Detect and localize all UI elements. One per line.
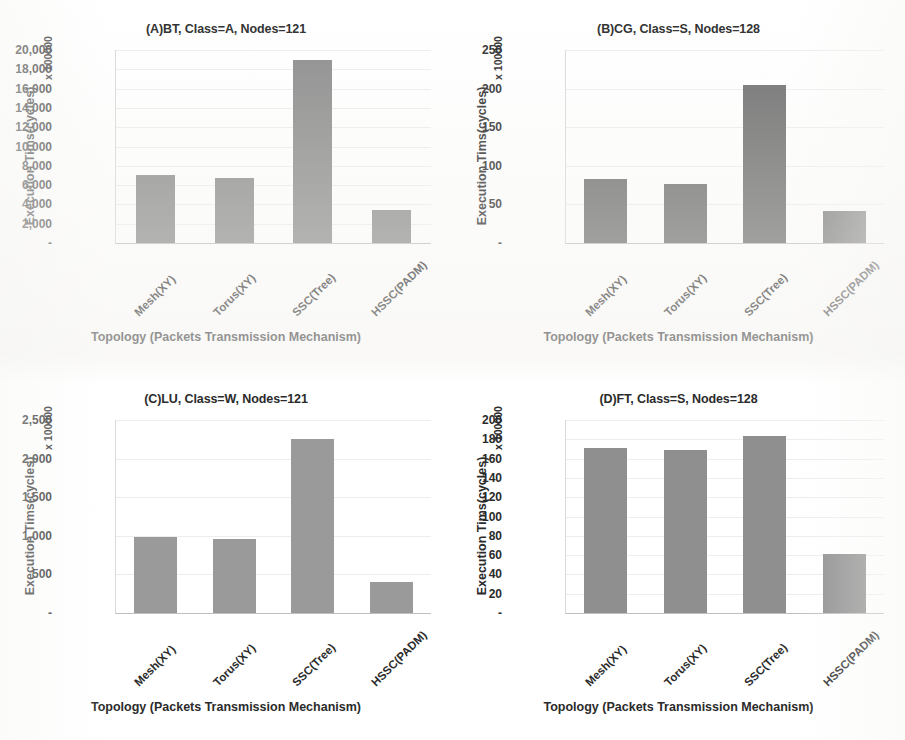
gridline	[566, 439, 884, 440]
x-axis-title-D: Topology (Packets Transmission Mechanism…	[452, 700, 905, 714]
y-tick-label: 6,000	[22, 179, 52, 191]
x-tick-label: SSC(Tree)	[290, 641, 337, 688]
gridline	[566, 50, 884, 51]
plot-area-A	[115, 50, 431, 244]
y-tick-label: 200	[482, 83, 502, 95]
gridline	[116, 127, 431, 128]
chart-title-D: (D)FT, Class=S, Nodes=128	[452, 392, 905, 406]
bar	[291, 439, 334, 613]
gridline	[116, 147, 431, 148]
y-tick-label: 200	[482, 414, 502, 426]
x-tick-label: HSSC(PADM)	[369, 259, 429, 319]
bar	[823, 211, 866, 243]
x-tick-label: HSSC(PADM)	[821, 259, 881, 319]
bar	[293, 60, 332, 243]
gridline	[116, 89, 431, 90]
bar	[134, 537, 177, 613]
y-tick-label: 12,000	[15, 121, 52, 133]
y-tick-label: 120	[482, 491, 502, 503]
figure-grid: (A)BT, Class=A, Nodes=121 Execution Tims…	[0, 0, 905, 740]
bar	[743, 85, 786, 243]
y-tick-label: 40	[489, 568, 502, 580]
gridline	[116, 166, 431, 167]
y-tick-label: 20,000	[15, 44, 52, 56]
gridline	[566, 166, 884, 167]
x-tick-label: Torus(XY)	[211, 642, 258, 689]
y-tick-label: 2,500	[22, 414, 52, 426]
bar	[584, 448, 627, 613]
x-tick-label: Mesh(XY)	[583, 643, 629, 689]
bar	[372, 210, 411, 243]
x-tick-label: Mesh(XY)	[132, 273, 178, 319]
y-tick-label: 1,000	[22, 530, 52, 542]
chart-panel-D: (D)FT, Class=S, Nodes=128 Execution Tims…	[452, 370, 905, 740]
x-axis-title-A: Topology (Packets Transmission Mechanism…	[0, 330, 452, 344]
y-tick-labels-A: 20,00018,00016,00014,00012,00010,0008,00…	[0, 0, 52, 263]
y-tick-label: 160	[482, 453, 502, 465]
chart-title-C: (C)LU, Class=W, Nodes=121	[0, 392, 452, 406]
y-tick-label: 250	[482, 44, 502, 56]
x-tick-label: SSC(Tree)	[290, 271, 337, 318]
y-tick-label: 10,000	[15, 141, 52, 153]
bar	[215, 178, 254, 243]
y-tick-label: 500	[32, 568, 52, 580]
bar	[664, 450, 707, 613]
y-tick-labels-D: 20018016014012010080604020-	[444, 370, 502, 633]
y-tick-label: 2,000	[22, 453, 52, 465]
chart-panel-B: (B)CG, Class=S, Nodes=128 Execution Tims…	[452, 0, 905, 370]
y-tick-label: 8,000	[22, 160, 52, 172]
gridline	[116, 69, 431, 70]
y-tick-label: 4,000	[22, 198, 52, 210]
y-tick-label: -	[48, 237, 52, 249]
x-tick-label: Torus(XY)	[662, 272, 709, 319]
y-tick-label: 80	[489, 530, 502, 542]
x-tick-label: HSSC(PADM)	[369, 629, 429, 689]
y-tick-label: 140	[482, 472, 502, 484]
y-tick-label: 50	[489, 198, 502, 210]
x-axis-title-B: Topology (Packets Transmission Mechanism…	[452, 330, 905, 344]
plot-area-D	[565, 420, 884, 614]
y-tick-labels-B: 25020015010050-	[444, 0, 502, 263]
y-tick-label: 2,000	[22, 218, 52, 230]
gridline	[566, 89, 884, 90]
chart-panel-C: (C)LU, Class=W, Nodes=121 Execution Tims…	[0, 370, 452, 740]
gridline	[566, 127, 884, 128]
y-tick-label: -	[498, 237, 502, 249]
gridline	[116, 459, 431, 460]
plot-area-B	[565, 50, 884, 244]
chart-panel-A: (A)BT, Class=A, Nodes=121 Execution Tims…	[0, 0, 452, 370]
bar	[664, 184, 707, 243]
chart-title-A: (A)BT, Class=A, Nodes=121	[0, 22, 452, 36]
y-tick-label: 100	[482, 160, 502, 172]
x-tick-label: Mesh(XY)	[583, 273, 629, 319]
bar	[136, 175, 175, 244]
bar	[743, 436, 786, 613]
x-tick-label: SSC(Tree)	[742, 271, 789, 318]
bar	[584, 179, 627, 243]
x-tick-label: HSSC(PADM)	[821, 629, 881, 689]
gridline	[116, 50, 431, 51]
y-tick-label: 150	[482, 121, 502, 133]
bar	[823, 554, 866, 613]
y-tick-label: -	[48, 607, 52, 619]
y-tick-label: 14,000	[15, 102, 52, 114]
y-tick-label: -	[498, 607, 502, 619]
y-tick-label: 180	[482, 433, 502, 445]
y-tick-label: 20	[489, 588, 502, 600]
chart-title-B: (B)CG, Class=S, Nodes=128	[452, 22, 905, 36]
x-tick-label: Torus(XY)	[662, 642, 709, 689]
x-axis-title-C: Topology (Packets Transmission Mechanism…	[0, 700, 452, 714]
gridline	[116, 420, 431, 421]
gridline	[116, 108, 431, 109]
gridline	[116, 497, 431, 498]
x-tick-label: Torus(XY)	[211, 272, 258, 319]
gridline	[566, 420, 884, 421]
y-tick-label: 100	[482, 511, 502, 523]
y-tick-label: 18,000	[15, 63, 52, 75]
bar	[213, 539, 256, 613]
x-tick-label: Mesh(XY)	[132, 643, 178, 689]
y-tick-label: 1,500	[22, 491, 52, 503]
x-tick-label: SSC(Tree)	[742, 641, 789, 688]
y-tick-label: 16,000	[15, 83, 52, 95]
bar	[370, 582, 413, 613]
